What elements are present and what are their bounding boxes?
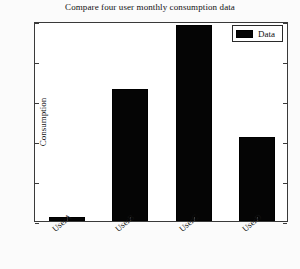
y-tick-mark — [283, 223, 287, 224]
y-tick-mark — [283, 143, 287, 144]
chart-legend: Data — [232, 25, 283, 42]
chart-title: Compare four user monthly consumption da… — [0, 2, 300, 12]
y-tick-mark — [35, 223, 39, 224]
y-tick-mark — [35, 23, 39, 24]
bar-userc — [176, 25, 212, 221]
plot-area: Consumption 020406080100 — [34, 22, 288, 222]
bar-chart-figure: Compare four user monthly consumption da… — [0, 0, 300, 269]
y-tick-mark — [35, 183, 39, 184]
legend-label-data: Data — [258, 29, 275, 39]
bar-userb — [112, 89, 148, 221]
y-tick-mark — [35, 63, 39, 64]
legend-swatch-data — [236, 30, 253, 38]
y-tick-mark — [283, 103, 287, 104]
bars-layer — [35, 23, 287, 221]
bar-userd — [239, 137, 275, 221]
y-tick-mark — [283, 23, 287, 24]
y-tick-mark — [283, 183, 287, 184]
y-tick-mark — [35, 143, 39, 144]
y-tick-mark — [283, 63, 287, 64]
y-tick-mark — [35, 103, 39, 104]
